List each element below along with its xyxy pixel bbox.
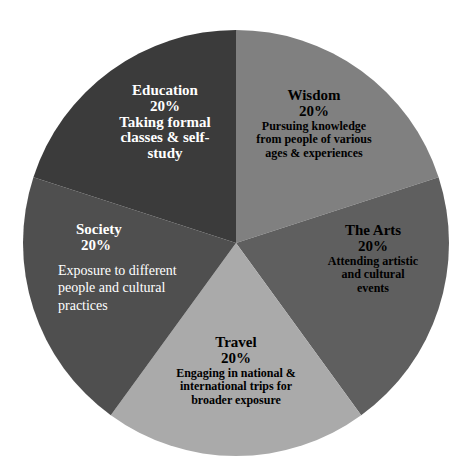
slice-desc-travel-line-1: Engaging in national & [166,367,306,381]
slice-desc-wisdom-line-3: ages & experiences [244,147,384,161]
slice-title-the-arts: The Arts [318,223,428,239]
slice-desc-travel-line-2: international trips for [166,380,306,394]
slice-percent-travel: 20% [166,351,306,367]
slice-label-wisdom: Wisdom 20% Pursuing knowledge from peopl… [244,88,384,161]
slice-desc-education-line-1: Taking formal [100,115,230,131]
slice-desc-society-line-2: people and cultural [58,279,203,297]
slice-title-travel: Travel [166,335,306,351]
slice-percent-education: 20% [100,99,230,115]
slice-desc-travel-line-3: broader exposure [166,394,306,408]
slice-percent-society: 20% [58,238,203,254]
slice-desc-wisdom-line-2: from people of various [244,133,384,147]
slice-label-education: Education 20% Taking formal classes & se… [100,83,230,162]
slice-desc-society: Exposure to different people and cultura… [58,262,203,315]
slice-desc-the-arts-line-2: and cultural [318,268,428,282]
slice-percent-wisdom: 20% [244,104,384,120]
slice-title-wisdom: Wisdom [244,88,384,104]
slice-title-education: Education [100,83,230,99]
slice-desc-society-line-1: Exposure to different [58,262,203,280]
slice-desc-the-arts-line-3: events [318,282,428,296]
slice-desc-wisdom-line-1: Pursuing knowledge [244,120,384,134]
slice-desc-society-line-3: practices [58,297,203,315]
slice-label-the-arts: The Arts 20% Attending artistic and cult… [318,223,428,296]
slice-desc-the-arts-line-1: Attending artistic [318,255,428,269]
slice-label-society: Society 20% Exposure to different people… [58,222,203,314]
slice-percent-the-arts: 20% [318,239,428,255]
slice-desc-education-line-3: study [100,146,230,162]
slice-label-travel: Travel 20% Engaging in national & intern… [166,335,306,408]
slice-title-society: Society [58,222,203,238]
slice-desc-education-line-2: classes & self- [100,130,230,146]
